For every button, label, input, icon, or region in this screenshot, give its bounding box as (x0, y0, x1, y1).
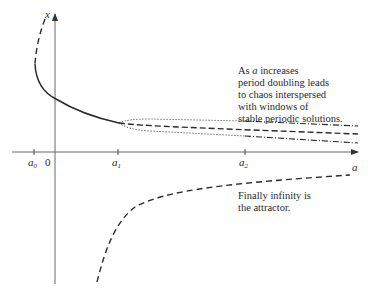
tick-label-a2: a2 (239, 157, 248, 170)
tick-label-zero: 0 (45, 157, 51, 168)
infinity-annotation-line-2: the attractor. (238, 202, 311, 214)
chaos-annotation-line-4: with windows of (238, 101, 343, 113)
period-doubling-upper (119, 119, 245, 123)
bifurcation-diagram: x a a0 0 a1 a2 As a increases period dou… (0, 0, 374, 294)
infinity-annotation-line-1: Finally infinity is (238, 190, 311, 202)
horizontal-axis-label: a (352, 162, 358, 173)
unstable-lower-branch (97, 175, 350, 282)
infinity-annotation: Finally infinity is the attractor. (238, 190, 311, 214)
vertical-axis-label: x (45, 9, 50, 20)
chaos-annotation-line-3: to chaos interspersed (238, 89, 343, 101)
period-doubling-lower-dashdot (245, 136, 358, 143)
chaos-annotation-line-5: stable periodic solutions. (238, 113, 343, 125)
chaos-annotation: As a increases period doubling leads to … (238, 65, 343, 125)
tick-label-a1: a1 (112, 157, 121, 170)
tick-label-a0: a0 (28, 157, 37, 170)
chaos-annotation-line-2: period doubling leads (238, 77, 343, 89)
diagram-canvas (0, 0, 374, 294)
unstable-upper-branch (35, 19, 45, 64)
stable-fixed-point-branch (35, 64, 119, 123)
chaos-annotation-line-1: As a increases (238, 65, 343, 77)
